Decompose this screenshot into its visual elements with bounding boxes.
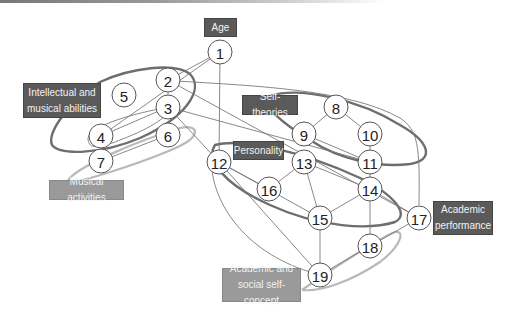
label-musical-activities: Musical activities: [49, 180, 124, 200]
node-18: 18: [358, 234, 382, 258]
node-6: 6: [156, 123, 180, 147]
node-9: 9: [292, 122, 316, 146]
node-number: 15: [312, 211, 329, 228]
label-academic-perf-line2: performance: [435, 218, 491, 234]
nodes: 12345678910111213141516171819: [89, 40, 431, 287]
node-4: 4: [89, 124, 113, 148]
label-academic-perf-line1: Academic: [441, 202, 485, 218]
node-7: 7: [89, 149, 113, 173]
edge-1-12: [219, 52, 220, 162]
label-self-concept-line1: Academic and: [230, 261, 293, 277]
node-number: 6: [164, 128, 172, 145]
node-number: 14: [362, 182, 379, 199]
node-17: 17: [407, 206, 431, 230]
node-number: 5: [120, 88, 128, 105]
node-number: 9: [300, 127, 308, 144]
label-intellectual-abilities: Intellectual and musical abilities: [23, 83, 101, 118]
label-age: Age: [204, 18, 237, 37]
node-16: 16: [257, 177, 281, 201]
node-number: 11: [362, 155, 378, 172]
node-number: 8: [332, 100, 340, 117]
label-intellectual-line2: musical abilities: [27, 101, 97, 117]
node-10: 10: [358, 122, 382, 146]
label-age-text: Age: [212, 20, 230, 36]
node-number: 19: [312, 268, 329, 285]
label-self-theories: Self-theories: [242, 95, 298, 115]
label-self-theories-text: Self-theories: [243, 89, 297, 121]
node-5: 5: [112, 83, 136, 107]
label-self-concept: Academic and social self-concept: [222, 268, 301, 302]
node-number: 7: [97, 154, 105, 171]
node-11: 11: [358, 150, 382, 174]
node-1: 1: [208, 40, 232, 64]
label-personality-text: Personality: [234, 143, 283, 159]
label-academic-performance: Academic performance: [433, 201, 493, 235]
node-2: 2: [156, 68, 180, 92]
node-number: 18: [362, 239, 379, 256]
node-15: 15: [308, 206, 332, 230]
label-personality: Personality: [233, 141, 284, 160]
node-number: 3: [164, 100, 172, 117]
label-intellectual-line1: Intellectual and: [28, 85, 95, 101]
node-number: 12: [211, 155, 228, 172]
node-13: 13: [292, 150, 316, 174]
node-8: 8: [324, 95, 348, 119]
node-14: 14: [358, 177, 382, 201]
label-musical-activities-text: Musical activities: [50, 174, 123, 206]
node-19: 19: [308, 263, 332, 287]
node-number: 2: [164, 73, 172, 90]
node-number: 16: [261, 182, 278, 199]
node-12: 12: [207, 150, 231, 174]
node-number: 17: [411, 211, 428, 228]
node-number: 1: [216, 45, 224, 62]
node-number: 10: [362, 127, 379, 144]
node-3: 3: [156, 95, 180, 119]
node-number: 13: [296, 155, 313, 172]
label-self-concept-line2: social self-concept: [223, 277, 300, 309]
node-number: 4: [97, 129, 105, 146]
